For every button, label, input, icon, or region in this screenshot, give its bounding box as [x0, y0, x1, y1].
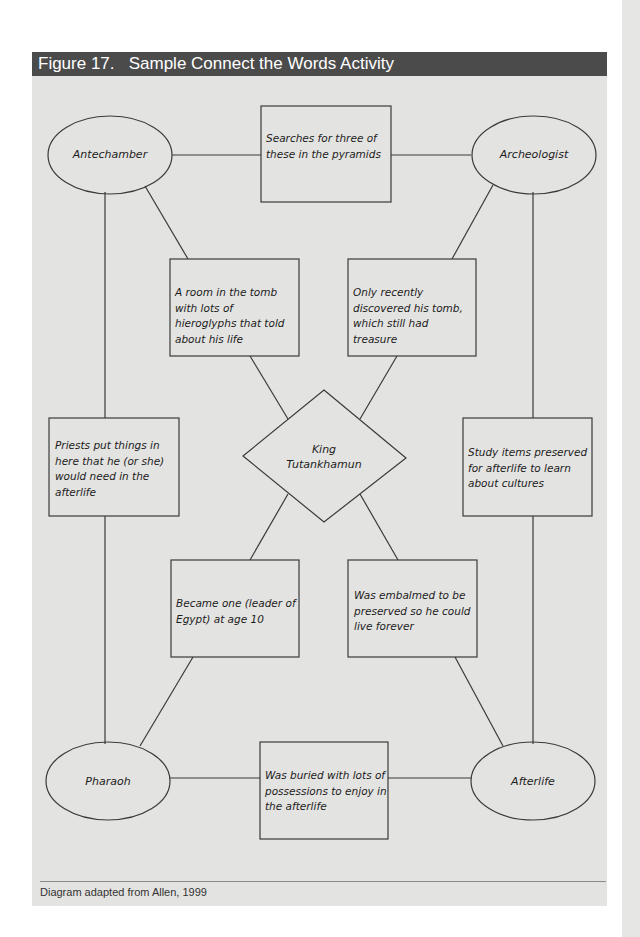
- box-text-upper-left: A room in the tomb with lots of hierogly…: [175, 285, 297, 347]
- connector-line: [360, 356, 397, 419]
- box-text-top: Searches for three of these in the pyram…: [266, 131, 384, 162]
- caption-divider: [40, 881, 606, 882]
- connector-line: [360, 494, 398, 560]
- box-text-bottom: Was buried with lots of possessions to e…: [265, 768, 387, 815]
- ellipse-label-afterlife: Afterlife: [471, 774, 595, 790]
- figure-caption: Diagram adapted from Allen, 1999: [40, 886, 207, 898]
- connector-line: [145, 186, 188, 259]
- connector-line: [140, 657, 193, 746]
- ellipse-label-antechamber: Antechamber: [48, 147, 172, 163]
- ellipse-label-archeologist: Archeologist: [472, 147, 596, 163]
- connector-line: [250, 356, 288, 419]
- connector-line: [250, 494, 288, 560]
- connector-line: [452, 185, 493, 259]
- box-text-right: Study items preserved for afterlife to l…: [468, 445, 590, 492]
- box-text-lower-right: Was embalmed to be preserved so he could…: [354, 588, 472, 635]
- center-label-line2: Tutankhamun: [262, 457, 386, 473]
- ellipse-label-pharaoh: Pharaoh: [46, 774, 170, 790]
- center-label-line1: King: [262, 442, 386, 458]
- box-text-lower-left: Became one (leader of Egypt) at age 10: [176, 596, 298, 627]
- connector-line: [455, 657, 503, 746]
- box-text-upper-right: Only recently discovered his tomb, which…: [353, 285, 475, 347]
- box-text-left: Priests put things in here that he (or s…: [55, 438, 175, 500]
